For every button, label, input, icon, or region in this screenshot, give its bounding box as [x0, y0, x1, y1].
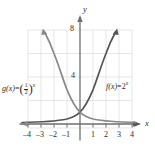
curve-label-f-name: f(x) — [106, 82, 117, 91]
x-tick-label-neg1: –1 — [62, 131, 70, 139]
x-tick-label-neg3: –3 — [36, 131, 44, 139]
y-tick-label-8: 8 — [70, 25, 74, 33]
fraction-one-half: 12 — [24, 83, 29, 96]
x-tick-label-3: 3 — [117, 131, 121, 139]
x-tick-label-neg4: –4 — [23, 131, 31, 139]
x-tick-label-neg2: –2 — [49, 131, 57, 139]
exponential-functions-graph: y x 8 4 –4 –3 –2 –1 1 2 3 4 g(x)=(12)x f… — [0, 0, 155, 159]
curve-g-arrowhead-up — [41, 29, 47, 36]
curve-label-g: g(x)=(12)x — [2, 83, 35, 96]
x-tick-label-1: 1 — [91, 131, 95, 139]
curve-label-f-exponent: x — [126, 80, 128, 86]
curve-f-arrowhead-up — [113, 29, 119, 36]
x-axis-label: x — [145, 119, 149, 128]
axis-arrowheads — [77, 15, 141, 127]
curve-label-f: f(x)=2x — [106, 83, 128, 91]
y-axis-arrowhead — [77, 15, 82, 22]
y-tick-label-4: 4 — [71, 72, 75, 80]
curve-label-g-exponent: x — [33, 82, 35, 88]
x-tick-label-2: 2 — [104, 131, 108, 139]
fraction-denominator: 2 — [24, 89, 29, 96]
curve-label-g-name: g(x) — [2, 84, 15, 93]
x-tick-label-4: 4 — [130, 131, 134, 139]
y-axis-label: y — [83, 5, 87, 14]
